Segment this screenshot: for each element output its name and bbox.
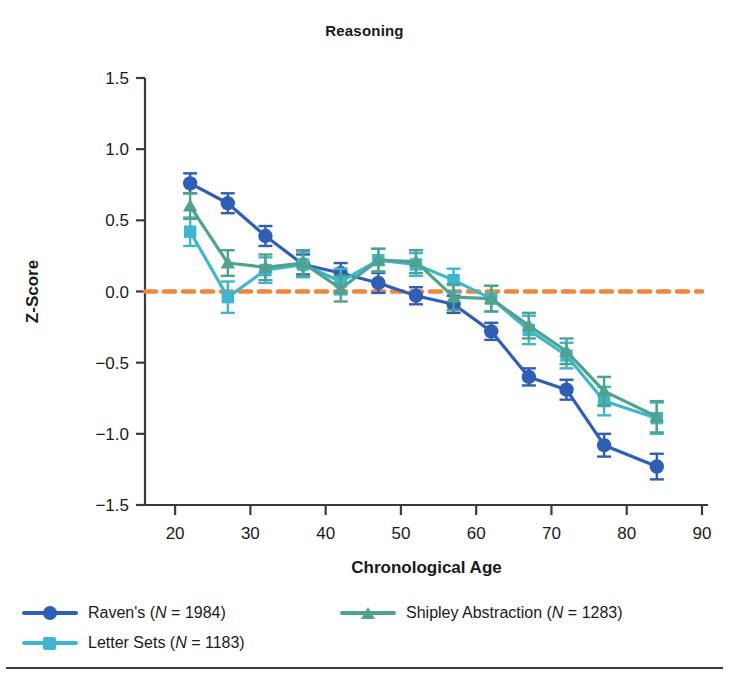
legend-key-triangle-icon: [340, 602, 396, 624]
data-point-circle: [522, 370, 536, 384]
data-point-square: [184, 226, 196, 238]
y-axis-label: Z-Score: [23, 260, 42, 323]
data-point-circle: [484, 324, 498, 338]
data-point-square: [222, 291, 234, 303]
data-point-circle: [183, 176, 197, 190]
y-tick-label: −0.5: [95, 354, 129, 373]
footer-divider: [6, 667, 723, 669]
legend-label: Shipley Abstraction (N = 1283): [406, 604, 623, 622]
x-tick-label: 40: [316, 524, 335, 543]
legend-marker-circle: [43, 606, 57, 620]
legend-marker-triangle: [361, 607, 375, 619]
legend-key-circle-icon: [22, 602, 78, 624]
legend-label: Raven's (N = 1984): [88, 604, 226, 622]
series-1: [183, 173, 664, 479]
y-tick-label: 0.0: [105, 283, 129, 302]
data-point-circle: [258, 229, 272, 243]
series-3: [183, 193, 664, 432]
y-tick-label: −1.0: [95, 425, 129, 444]
legend-item[interactable]: Raven's (N = 1984): [22, 600, 226, 626]
x-axis-label: Chronological Age: [351, 558, 502, 577]
x-tick-label: 50: [391, 524, 410, 543]
data-point-circle: [409, 289, 423, 303]
data-point-circle: [559, 383, 573, 397]
data-point-circle: [371, 276, 385, 290]
x-tick-label: 80: [617, 524, 636, 543]
data-point-circle: [650, 459, 664, 473]
y-tick-label: −1.5: [95, 496, 129, 515]
data-point-circle: [597, 438, 611, 452]
legend-item[interactable]: Shipley Abstraction (N = 1283): [340, 600, 623, 626]
x-tick-label: 60: [467, 524, 486, 543]
legend-item[interactable]: Letter Sets (N = 1183): [22, 630, 245, 656]
x-tick-label: 90: [693, 524, 712, 543]
legend-key-square-icon: [22, 632, 78, 654]
y-tick-label: 1.5: [105, 69, 129, 88]
y-tick-label: 1.0: [105, 140, 129, 159]
data-point-circle: [221, 196, 235, 210]
plot-area: 1.51.00.50.0−0.5−1.0−1.52030405060708090…: [0, 0, 729, 590]
chart-figure: Reasoning 1.51.00.50.0−0.5−1.0−1.5203040…: [0, 0, 729, 681]
chart-legend: Raven's (N = 1984)Letter Sets (N = 1183)…: [22, 600, 712, 656]
legend-marker-square: [43, 637, 56, 650]
x-tick-label: 70: [542, 524, 561, 543]
x-tick-label: 30: [241, 524, 260, 543]
x-tick-label: 20: [166, 524, 185, 543]
data-point-triangle: [183, 199, 197, 212]
series-2: [183, 217, 664, 433]
y-tick-label: 0.5: [105, 211, 129, 230]
legend-label: Letter Sets (N = 1183): [88, 634, 245, 652]
series-line: [190, 232, 657, 418]
